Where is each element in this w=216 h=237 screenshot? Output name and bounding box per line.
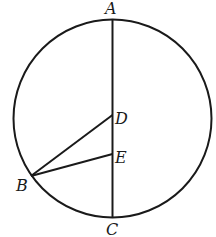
label-c: C	[106, 220, 118, 237]
label-e: E	[114, 148, 127, 167]
geometry-diagram: A D E B C	[0, 0, 216, 237]
label-d: D	[114, 109, 128, 128]
segment-bd	[31, 115, 113, 176]
label-a: A	[103, 0, 117, 18]
segment-be	[31, 154, 113, 176]
label-b: B	[15, 176, 28, 195]
